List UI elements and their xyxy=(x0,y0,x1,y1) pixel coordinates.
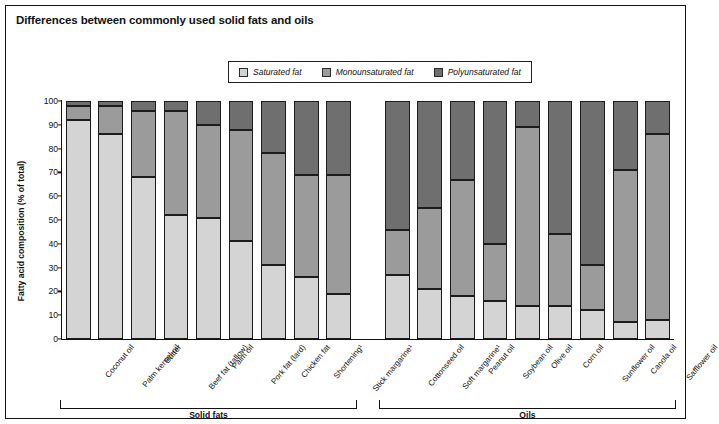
bar-segment-mono xyxy=(164,111,189,216)
legend-item-poly: Polyunsaturated fat xyxy=(434,67,521,77)
y-axis-tick-label: 20 xyxy=(48,286,58,296)
bar-segment-mono xyxy=(548,234,573,305)
bar-segment-sat xyxy=(613,322,638,339)
bar-segment-sat xyxy=(548,306,573,339)
bar-segment-poly xyxy=(294,101,319,175)
bar-segment-mono xyxy=(645,134,670,320)
bar-safflower-oil[interactable] xyxy=(645,101,670,339)
legend-item-mono: Monounsaturated fat xyxy=(322,67,414,77)
bar-segment-poly xyxy=(580,101,605,265)
y-axis-tick-mark xyxy=(58,124,62,125)
y-axis-tick-mark xyxy=(58,100,62,101)
y-axis-tick-label: 80 xyxy=(48,144,58,154)
bar-beef-fat-tallow[interactable] xyxy=(164,101,189,339)
bar-segment-sat xyxy=(294,277,319,339)
group-bracket-solid-fats xyxy=(60,400,356,409)
bar-chicken-fat[interactable] xyxy=(261,101,286,339)
bar-segment-sat xyxy=(417,289,442,339)
bar-canola-oil[interactable] xyxy=(613,101,638,339)
legend-item-sat: Saturated fat xyxy=(239,67,302,77)
legend-label: Monounsaturated fat xyxy=(336,67,414,77)
bar-segment-sat xyxy=(131,177,156,339)
bar-segment-sat xyxy=(164,215,189,339)
bar-segment-poly xyxy=(196,101,221,125)
bar-segment-mono xyxy=(417,208,442,289)
bar-cottonseed-oil[interactable] xyxy=(385,101,410,339)
bar-segment-sat xyxy=(98,134,123,339)
y-axis-tick-label: 60 xyxy=(48,191,58,201)
x-axis-label: Safflower oil xyxy=(684,343,719,382)
bar-segment-poly xyxy=(483,101,508,244)
bar-segment-sat xyxy=(483,301,508,339)
y-axis-tick-mark xyxy=(58,219,62,220)
bar-segment-poly xyxy=(98,101,123,106)
bar-segment-mono xyxy=(196,125,221,218)
y-axis-tick-label: 30 xyxy=(48,263,58,273)
legend-label: Saturated fat xyxy=(253,67,302,77)
group-label: Oils xyxy=(379,410,675,420)
bar-segment-sat xyxy=(261,265,286,339)
legend-swatch-poly-icon xyxy=(434,68,443,77)
bar-shortening[interactable] xyxy=(294,101,319,339)
bar-peanut-oil[interactable] xyxy=(450,101,475,339)
y-axis-tick-mark xyxy=(58,267,62,268)
y-axis-tick-mark xyxy=(58,291,62,292)
bar-segment-sat xyxy=(450,296,475,339)
bar-segment-mono xyxy=(613,170,638,322)
chart-legend: Saturated fatMonounsaturated fatPolyunsa… xyxy=(228,61,532,83)
bar-palm-kernel-oil[interactable] xyxy=(98,101,123,339)
bar-butter[interactable] xyxy=(131,101,156,339)
bar-segment-poly xyxy=(450,101,475,180)
bar-coconut-oil[interactable] xyxy=(66,101,91,339)
y-axis-tick-mark xyxy=(58,172,62,173)
bar-segment-sat xyxy=(66,120,91,339)
bar-segment-mono xyxy=(515,127,540,306)
bar-segment-poly xyxy=(515,101,540,127)
y-axis-tick-label: 50 xyxy=(48,215,58,225)
bar-segment-sat xyxy=(580,310,605,339)
bar-segment-poly xyxy=(548,101,573,234)
bar-segment-sat xyxy=(229,241,254,339)
bar-segment-sat xyxy=(326,294,351,339)
y-axis-tick-mark xyxy=(58,315,62,316)
bar-segment-mono xyxy=(450,180,475,297)
group-bracket-oils xyxy=(379,400,675,409)
y-axis-tick-label: 70 xyxy=(48,167,58,177)
bar-segment-mono xyxy=(98,106,123,135)
bar-segment-poly xyxy=(645,101,670,134)
bar-segment-poly xyxy=(131,101,156,111)
y-axis-tick-mark xyxy=(58,148,62,149)
y-axis-tick-label: 40 xyxy=(48,239,58,249)
bar-segment-mono xyxy=(294,175,319,277)
bar-segment-mono xyxy=(580,265,605,310)
bar-segment-poly xyxy=(417,101,442,208)
legend-label: Polyunsaturated fat xyxy=(448,67,521,77)
bar-segment-mono xyxy=(326,175,351,294)
bar-segment-sat xyxy=(196,218,221,339)
y-axis-tick-mark xyxy=(58,243,62,244)
y-axis-tick-mark xyxy=(58,338,62,339)
bar-stick-margarine[interactable] xyxy=(326,101,351,339)
bar-segment-sat xyxy=(515,306,540,339)
bar-segment-mono xyxy=(483,244,508,301)
bar-segment-mono xyxy=(66,106,91,120)
bar-segment-poly xyxy=(385,101,410,230)
y-axis-tick-mark xyxy=(58,196,62,197)
bar-corn-oil[interactable] xyxy=(548,101,573,339)
group-label: Solid fats xyxy=(60,410,356,420)
bar-segment-poly xyxy=(261,101,286,153)
x-axis-line xyxy=(61,339,674,340)
bar-olive-oil[interactable] xyxy=(515,101,540,339)
bar-soft-margarine[interactable] xyxy=(417,101,442,339)
bar-soybean-oil[interactable] xyxy=(483,101,508,339)
bar-sunflower-oil[interactable] xyxy=(580,101,605,339)
y-axis-title: Fatty acid composition (% of total) xyxy=(14,131,28,331)
bar-segment-poly xyxy=(326,101,351,175)
bar-pork-fat-lard[interactable] xyxy=(229,101,254,339)
bar-segment-sat xyxy=(385,275,410,339)
bar-segment-poly xyxy=(229,101,254,130)
bar-segment-mono xyxy=(229,130,254,242)
bar-palm-oil[interactable] xyxy=(196,101,221,339)
bar-segment-poly xyxy=(613,101,638,170)
